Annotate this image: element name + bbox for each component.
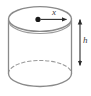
radius-label: x [52,8,56,17]
height-label: h [83,36,88,45]
cylinder-drawing [0,0,91,96]
cylinder-figure: x h [0,0,91,96]
center-point [35,17,40,22]
